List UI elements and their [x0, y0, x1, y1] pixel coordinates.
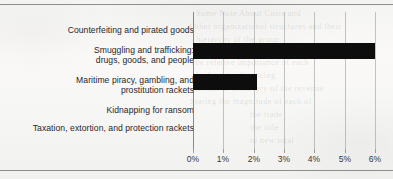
tick-label-3pct: 3%	[278, 154, 291, 164]
tick-0pct	[193, 149, 194, 153]
tick-6pct	[375, 149, 376, 153]
gridline-4pct	[314, 12, 315, 149]
category-label-maritime-piracy: Maritime piracy, gambling, and prostitut…	[76, 76, 194, 95]
gridline-6pct	[375, 12, 376, 149]
tick-label-0pct: 0%	[187, 154, 200, 164]
category-label-smuggling: Smuggling and trafficking: drugs, goods,…	[94, 46, 194, 65]
category-label-line: Taxation, extortion, and protection rack…	[33, 124, 194, 134]
bar-maritime-piracy	[193, 74, 257, 90]
category-label-kidnapping: Kidnapping for ransom	[106, 106, 194, 116]
category-label-line: prostitution rackets	[76, 86, 194, 96]
gridline-3pct	[284, 12, 285, 149]
category-label-counterfeiting: Counterfeiting and pirated goods	[68, 26, 194, 36]
tick-label-6pct: 6%	[369, 154, 382, 164]
tick-label-2pct: 2%	[248, 154, 261, 164]
tick-5pct	[345, 149, 346, 153]
category-label-taxation-extortion: Taxation, extortion, and protection rack…	[33, 124, 194, 134]
scanned-page: Some Note About Costs and Other organiza…	[0, 0, 393, 179]
category-label-line: drugs, goods, and people	[94, 56, 194, 66]
tick-3pct	[284, 149, 285, 153]
tick-label-4pct: 4%	[308, 154, 321, 164]
tick-2pct	[254, 149, 255, 153]
gridline-5pct	[345, 12, 346, 149]
tick-4pct	[314, 149, 315, 153]
tick-1pct	[223, 149, 224, 153]
bar-chart: Counterfeiting and pirated goods Smuggli…	[0, 8, 393, 166]
plot-area: 0% 1% 2% 3% 4% 5% 6%	[193, 12, 375, 149]
page-rule-top	[0, 4, 393, 5]
page-rule-bottom	[0, 170, 393, 171]
tick-label-5pct: 5%	[339, 154, 352, 164]
tick-label-1pct: 1%	[217, 154, 230, 164]
category-label-line: Counterfeiting and pirated goods	[68, 26, 194, 36]
bar-smuggling	[193, 43, 375, 59]
category-label-line: Kidnapping for ransom	[106, 106, 194, 116]
